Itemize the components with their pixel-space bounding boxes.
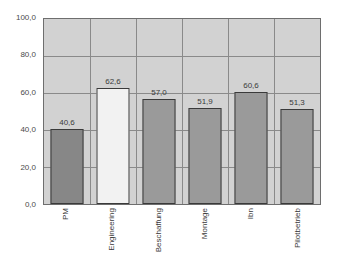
bar-slot: 60,6 bbox=[228, 19, 274, 204]
bar[interactable] bbox=[235, 92, 268, 204]
x-tick-label: Montage bbox=[201, 208, 209, 239]
y-axis: 100,0 80,0 60,0 40,0 20,0 0,0 bbox=[0, 18, 40, 205]
bar[interactable] bbox=[142, 99, 175, 204]
x-category: PM bbox=[43, 206, 89, 278]
x-axis: PM Engineering Beschaffung Montage Ibn P… bbox=[43, 206, 321, 278]
bar-chart: 100,0 80,0 60,0 40,0 20,0 0,0 40,6 62,6 … bbox=[0, 0, 343, 278]
y-tick-label: 60,0 bbox=[20, 89, 36, 97]
x-category: Montage bbox=[182, 206, 228, 278]
bar[interactable] bbox=[280, 109, 313, 204]
bar-slot: 57,0 bbox=[136, 19, 182, 204]
bar-slot: 40,6 bbox=[44, 19, 90, 204]
x-category: Ibn bbox=[228, 206, 274, 278]
bar-value-label: 51,9 bbox=[197, 98, 213, 106]
y-tick-label: 100,0 bbox=[16, 14, 36, 22]
x-tick-label: Ibn bbox=[247, 208, 255, 219]
y-tick-label: 0,0 bbox=[25, 201, 36, 209]
bar-value-label: 51,3 bbox=[289, 99, 305, 107]
bar[interactable] bbox=[97, 88, 130, 204]
x-tick-label: Beschaffung bbox=[155, 208, 163, 252]
bar-slot: 51,9 bbox=[182, 19, 228, 204]
x-tick-label: PM bbox=[62, 208, 70, 220]
bar-value-label: 62,6 bbox=[105, 78, 121, 86]
bar[interactable] bbox=[189, 108, 222, 204]
x-tick-label: Engineering bbox=[108, 208, 116, 251]
bar-slot: 62,6 bbox=[90, 19, 136, 204]
bar-value-label: 57,0 bbox=[151, 89, 167, 97]
bar-value-label: 60,6 bbox=[243, 82, 259, 90]
x-category: Engineering bbox=[89, 206, 135, 278]
bar-slot: 51,3 bbox=[274, 19, 320, 204]
x-category: Beschaffung bbox=[136, 206, 182, 278]
bar[interactable] bbox=[51, 129, 84, 204]
x-category: Pilotbetrieb bbox=[275, 206, 321, 278]
bar-value-label: 40,6 bbox=[59, 119, 75, 127]
x-tick-label: Pilotbetrieb bbox=[294, 208, 302, 248]
y-tick-label: 40,0 bbox=[20, 126, 36, 134]
y-tick-label: 20,0 bbox=[20, 164, 36, 172]
y-tick-label: 80,0 bbox=[20, 51, 36, 59]
plot-area: 40,6 62,6 57,0 51,9 60,6 51,3 bbox=[43, 18, 321, 205]
